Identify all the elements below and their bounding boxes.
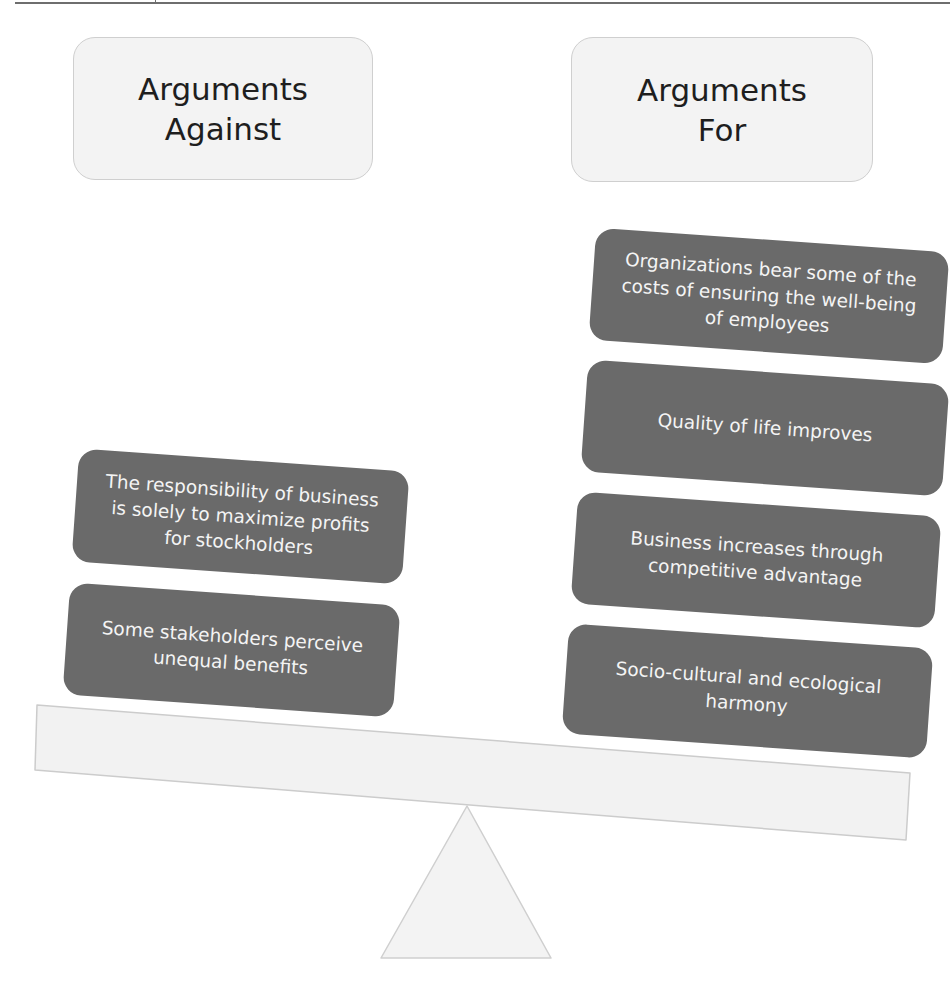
header-against-line2: Against [138, 109, 308, 149]
argument-for-text-1: Organizations bear some of the costs of … [612, 246, 927, 345]
fulcrum-triangle [381, 806, 551, 958]
argument-for-text-2: Quality of life improves [657, 408, 873, 449]
header-arguments-for: Arguments For [571, 37, 873, 182]
header-for-line2: For [637, 110, 807, 150]
header-arguments-against: Arguments Against [73, 37, 373, 180]
argument-for-text-3: Business increases through competitive a… [595, 523, 918, 597]
header-against-line1: Arguments [138, 69, 308, 109]
argument-against-card-2: Some stakeholders perceive unequal benef… [62, 583, 400, 718]
argument-against-text-1: The responsibility of business is solely… [95, 468, 387, 566]
argument-for-text-4: Socio-cultural and ecological harmony [586, 654, 910, 728]
header-for-line1: Arguments [637, 70, 807, 110]
argument-against-text-2: Some stakeholders perceive unequal benef… [87, 614, 377, 686]
argument-against-card-1: The responsibility of business is solely… [71, 449, 409, 585]
